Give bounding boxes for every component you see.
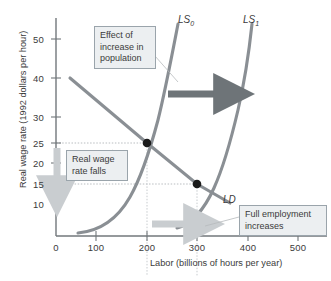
x-tick-label-500: 500	[283, 242, 313, 253]
x-tick-label-200: 200	[132, 242, 162, 253]
chart-canvas	[0, 0, 331, 281]
x-tick-label-100: 100	[81, 242, 111, 253]
curve-label-ls0-sub: 0	[190, 20, 194, 27]
labor-supply-curve-ls1	[177, 24, 252, 228]
curve-label-ls1-sub: 1	[255, 20, 259, 27]
employment-leader-line	[205, 217, 239, 226]
callout-population: Effect of increase in population	[94, 26, 156, 69]
x-tick-label-0: 0	[41, 242, 71, 253]
curve-label-ls1: LS1	[243, 14, 259, 27]
initial-equilibrium-point	[143, 139, 152, 148]
y-axis-title: Real wage rate (1992 dollars per hour)	[18, 38, 28, 188]
curve-label-ls1-main: LS	[243, 14, 255, 25]
x-tick-label-400: 400	[233, 242, 263, 253]
curve-label-ls0: LS0	[178, 14, 194, 27]
curve-label-ls0-main: LS	[178, 14, 190, 25]
x-axis-title: Labor (billions of hours per year)	[150, 258, 282, 268]
y-tick-label-10: 10	[22, 199, 44, 210]
callout-real-wage-falls: Real wage rate falls	[66, 150, 128, 181]
x-tick-label-300: 300	[182, 242, 212, 253]
callout-full-employment: Full employment increases	[239, 205, 327, 236]
labor-market-figure: 50 40 30 25 20 15 10 0 100 200 300 400 5…	[0, 0, 331, 281]
curve-label-ld: LD	[223, 194, 236, 205]
new-equilibrium-point	[193, 180, 202, 189]
